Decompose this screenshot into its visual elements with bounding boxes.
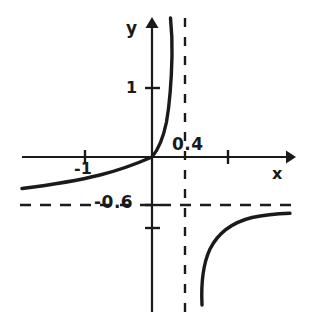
vertical-asymptote-label: 0.4 bbox=[172, 136, 204, 153]
x-axis-label: x bbox=[272, 166, 282, 182]
x-tick-label-neg-one: -1 bbox=[74, 161, 92, 177]
x-axis-arrow-icon bbox=[286, 151, 296, 164]
y-tick-label-one: 1 bbox=[126, 80, 137, 96]
y-axis-label: y bbox=[126, 20, 137, 37]
curve-branch-lower-right bbox=[202, 213, 290, 305]
y-axis bbox=[146, 17, 159, 312]
y-axis-arrow-icon bbox=[146, 17, 159, 28]
math-graph-figure: y x 1 -1 0.4 -0.6 bbox=[0, 0, 322, 332]
horizontal-asymptote-label: -0.6 bbox=[94, 194, 133, 211]
x-axis bbox=[22, 151, 296, 164]
